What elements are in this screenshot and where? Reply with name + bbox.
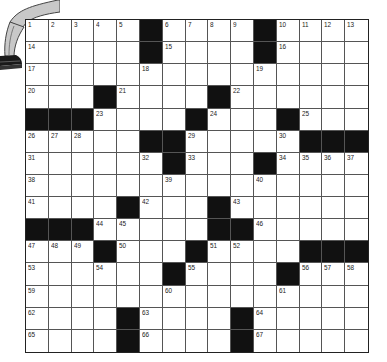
grid-cell[interactable] <box>208 308 231 330</box>
grid-cell[interactable] <box>117 153 140 175</box>
grid-cell[interactable] <box>322 197 345 219</box>
grid-cell[interactable] <box>117 263 140 285</box>
grid-cell[interactable]: 56 <box>300 263 323 285</box>
grid-cell[interactable]: 48 <box>49 241 72 263</box>
grid-cell[interactable] <box>94 308 117 330</box>
grid-cell[interactable]: 5 <box>117 20 140 42</box>
grid-cell[interactable]: 61 <box>277 286 300 308</box>
grid-cell[interactable]: 39 <box>163 175 186 197</box>
grid-cell[interactable]: 19 <box>254 64 277 86</box>
grid-cell[interactable] <box>163 219 186 241</box>
grid-cell[interactable]: 33 <box>186 153 209 175</box>
grid-cell[interactable] <box>163 197 186 219</box>
grid-cell[interactable] <box>94 42 117 64</box>
grid-cell[interactable]: 42 <box>140 197 163 219</box>
grid-cell[interactable] <box>208 42 231 64</box>
grid-cell[interactable]: 66 <box>140 330 163 352</box>
grid-cell[interactable] <box>300 175 323 197</box>
grid-cell[interactable]: 28 <box>72 131 95 153</box>
grid-cell[interactable]: 25 <box>300 109 323 131</box>
grid-cell[interactable] <box>49 197 72 219</box>
grid-cell[interactable]: 43 <box>231 197 254 219</box>
grid-cell[interactable] <box>140 263 163 285</box>
grid-cell[interactable]: 2 <box>49 20 72 42</box>
grid-cell[interactable] <box>322 175 345 197</box>
grid-cell[interactable] <box>186 64 209 86</box>
grid-cell[interactable]: 59 <box>26 286 49 308</box>
grid-cell[interactable] <box>345 197 368 219</box>
grid-cell[interactable]: 8 <box>208 20 231 42</box>
grid-cell[interactable] <box>322 286 345 308</box>
grid-cell[interactable] <box>300 330 323 352</box>
grid-cell[interactable]: 50 <box>117 241 140 263</box>
grid-cell[interactable]: 13 <box>345 20 368 42</box>
grid-cell[interactable] <box>117 175 140 197</box>
grid-cell[interactable] <box>254 286 277 308</box>
grid-cell[interactable]: 45 <box>117 219 140 241</box>
grid-cell[interactable]: 67 <box>254 330 277 352</box>
grid-cell[interactable]: 7 <box>186 20 209 42</box>
grid-cell[interactable] <box>254 131 277 153</box>
grid-cell[interactable]: 1 <box>26 20 49 42</box>
grid-cell[interactable]: 3 <box>72 20 95 42</box>
grid-cell[interactable] <box>345 330 368 352</box>
grid-cell[interactable]: 34 <box>277 153 300 175</box>
grid-cell[interactable] <box>345 42 368 64</box>
grid-cell[interactable] <box>94 153 117 175</box>
grid-cell[interactable] <box>94 330 117 352</box>
grid-cell[interactable] <box>186 219 209 241</box>
grid-cell[interactable] <box>300 286 323 308</box>
grid-cell[interactable] <box>208 330 231 352</box>
grid-cell[interactable]: 26 <box>26 131 49 153</box>
grid-cell[interactable] <box>322 64 345 86</box>
grid-cell[interactable] <box>140 109 163 131</box>
grid-cell[interactable] <box>322 308 345 330</box>
grid-cell[interactable] <box>186 86 209 108</box>
grid-cell[interactable] <box>72 286 95 308</box>
grid-cell[interactable] <box>49 308 72 330</box>
grid-cell[interactable]: 12 <box>322 20 345 42</box>
grid-cell[interactable] <box>94 131 117 153</box>
grid-cell[interactable] <box>140 86 163 108</box>
grid-cell[interactable]: 38 <box>26 175 49 197</box>
grid-cell[interactable]: 57 <box>322 263 345 285</box>
grid-cell[interactable] <box>117 131 140 153</box>
grid-cell[interactable] <box>277 175 300 197</box>
grid-cell[interactable] <box>72 330 95 352</box>
grid-cell[interactable] <box>72 153 95 175</box>
grid-cell[interactable] <box>254 263 277 285</box>
grid-cell[interactable] <box>49 330 72 352</box>
grid-cell[interactable]: 6 <box>163 20 186 42</box>
grid-cell[interactable] <box>322 330 345 352</box>
grid-cell[interactable]: 54 <box>94 263 117 285</box>
grid-cell[interactable] <box>277 64 300 86</box>
grid-cell[interactable] <box>94 64 117 86</box>
grid-cell[interactable] <box>345 64 368 86</box>
grid-cell[interactable] <box>72 64 95 86</box>
grid-cell[interactable] <box>163 308 186 330</box>
grid-cell[interactable]: 32 <box>140 153 163 175</box>
grid-cell[interactable]: 20 <box>26 86 49 108</box>
grid-cell[interactable]: 15 <box>163 42 186 64</box>
grid-cell[interactable] <box>300 86 323 108</box>
grid-cell[interactable] <box>163 86 186 108</box>
grid-cell[interactable]: 31 <box>26 153 49 175</box>
grid-cell[interactable]: 29 <box>186 131 209 153</box>
grid-cell[interactable] <box>163 109 186 131</box>
grid-cell[interactable]: 10 <box>277 20 300 42</box>
grid-cell[interactable]: 63 <box>140 308 163 330</box>
grid-cell[interactable] <box>345 175 368 197</box>
grid-cell[interactable] <box>300 42 323 64</box>
grid-cell[interactable]: 55 <box>186 263 209 285</box>
grid-cell[interactable]: 62 <box>26 308 49 330</box>
grid-cell[interactable] <box>322 219 345 241</box>
grid-cell[interactable]: 51 <box>208 241 231 263</box>
grid-cell[interactable] <box>117 286 140 308</box>
grid-cell[interactable]: 40 <box>254 175 277 197</box>
grid-cell[interactable] <box>49 64 72 86</box>
grid-cell[interactable] <box>72 42 95 64</box>
grid-cell[interactable] <box>300 197 323 219</box>
grid-cell[interactable] <box>186 42 209 64</box>
grid-cell[interactable] <box>72 308 95 330</box>
grid-cell[interactable] <box>117 109 140 131</box>
